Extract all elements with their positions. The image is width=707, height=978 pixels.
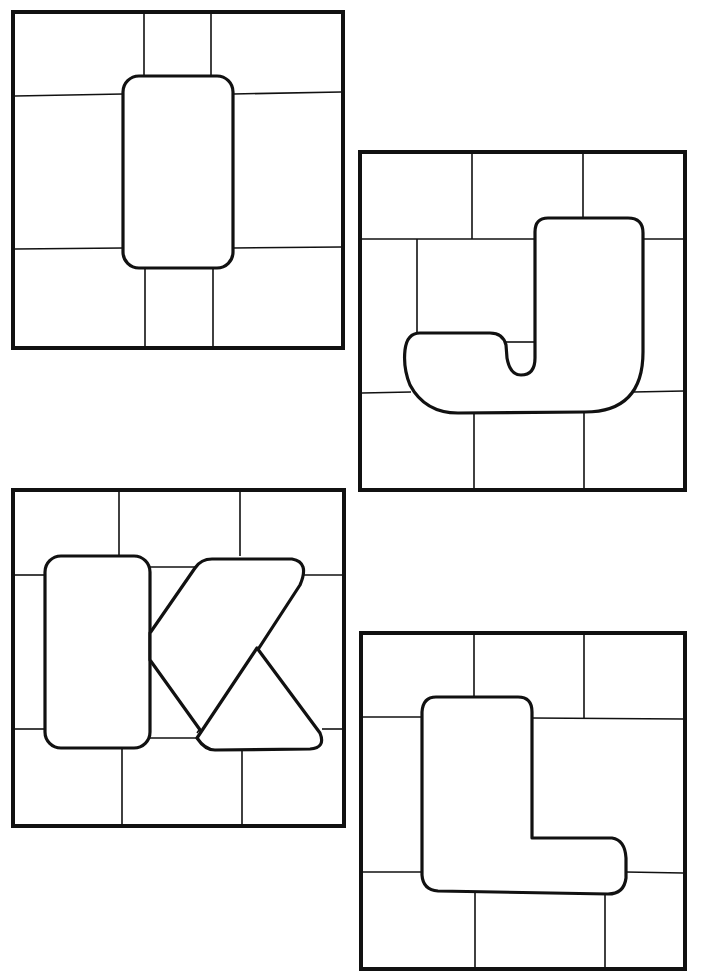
letter-k-stem (45, 556, 150, 748)
panel-letter-j (360, 152, 685, 490)
letter-l-shape (422, 697, 626, 894)
coloring-page (0, 0, 707, 978)
panel-letter-i (13, 12, 343, 348)
letter-j-shape (405, 218, 643, 413)
panel-letter-l (361, 633, 685, 969)
letter-i-shape (123, 76, 233, 268)
panel-letter-k (13, 490, 344, 826)
